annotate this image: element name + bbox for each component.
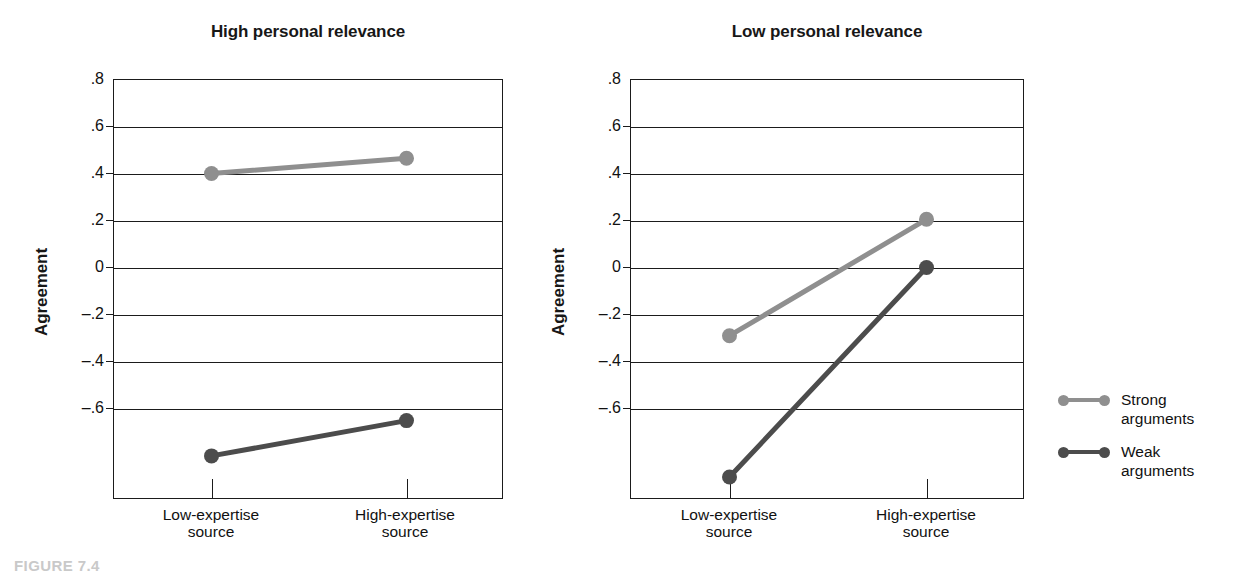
y-tick-mark	[106, 173, 113, 174]
legend-swatch-weak-arguments	[1058, 445, 1110, 459]
legend-dot-left	[1058, 447, 1069, 458]
y-tick-label: .4	[585, 165, 621, 181]
legend-item-weak-arguments[interactable]: Weak arguments	[1058, 442, 1194, 481]
y-tick-label: .2	[585, 212, 621, 228]
legend-label-line2: arguments	[1121, 409, 1194, 428]
legend-label-strong-arguments: Strong arguments	[1121, 390, 1194, 429]
x-tick-label-high-expertise-right: High-expertise source	[850, 506, 1002, 541]
series-strong-arguments-low	[722, 212, 934, 343]
data-point	[204, 166, 219, 181]
y-tick-label: –.4	[62, 353, 104, 369]
x-tick-line2: source	[850, 523, 1002, 540]
y-tick-mark	[106, 361, 113, 362]
legend-label-weak-arguments: Weak arguments	[1121, 442, 1194, 481]
y-tick-label: –.6	[579, 400, 621, 416]
series-layer-low	[631, 80, 1025, 500]
y-tick-mark	[106, 220, 113, 221]
series-weak-arguments-high	[204, 413, 414, 463]
y-tick-mark	[106, 267, 113, 268]
x-tick-label-low-expertise-right: Low-expertise source	[653, 506, 805, 541]
y-axis-label-right: Agreement	[549, 232, 569, 352]
panel-title-low-personal-relevance: Low personal relevance	[630, 22, 1024, 42]
data-point	[204, 448, 219, 463]
y-tick-mark	[623, 408, 630, 409]
legend-dot-right	[1099, 395, 1110, 406]
data-point	[919, 212, 934, 227]
y-tick-label: –.2	[579, 306, 621, 322]
x-tick-label-low-expertise-left: Low-expertise source	[135, 506, 287, 541]
series-strong-arguments-high	[204, 151, 414, 181]
y-tick-mark	[623, 314, 630, 315]
y-tick-label: –.6	[62, 400, 104, 416]
data-point	[722, 328, 737, 343]
y-tick-mark	[623, 126, 630, 127]
x-tick-line1: High-expertise	[329, 506, 481, 523]
y-tick-label: –.2	[62, 306, 104, 322]
series-layer-high	[114, 80, 504, 500]
y-tick-label: 0	[68, 259, 104, 275]
y-tick-mark	[106, 314, 113, 315]
series-weak-arguments-low	[722, 260, 934, 485]
y-tick-mark	[106, 408, 113, 409]
legend-swatch-strong-arguments	[1058, 393, 1110, 407]
panel-title-high-personal-relevance: High personal relevance	[113, 22, 503, 42]
y-tick-mark	[106, 126, 113, 127]
y-tick-label: .8	[68, 71, 104, 87]
y-tick-label: .6	[68, 118, 104, 134]
data-point	[919, 260, 934, 275]
data-point	[722, 470, 737, 485]
legend-label-line1: Weak	[1121, 442, 1194, 461]
chart-legend: Strong arguments Weak arguments	[1058, 390, 1248, 500]
plot-area-low-personal-relevance	[630, 79, 1024, 499]
figure-root: High personal relevance Agreement .8 .6 …	[0, 0, 1256, 572]
legend-label-line1: Strong	[1121, 390, 1194, 409]
figure-caption-fragment: FIGURE 7.4	[14, 557, 100, 572]
x-tick-line2: source	[329, 523, 481, 540]
x-tick-line2: source	[135, 523, 287, 540]
plot-area-high-personal-relevance	[113, 79, 503, 499]
legend-item-strong-arguments[interactable]: Strong arguments	[1058, 390, 1194, 429]
y-axis-label-left: Agreement	[32, 232, 52, 352]
data-point	[399, 151, 414, 166]
x-tick-line1: Low-expertise	[135, 506, 287, 523]
y-tick-mark	[623, 173, 630, 174]
y-tick-label: –.4	[579, 353, 621, 369]
data-point	[399, 413, 414, 428]
y-tick-mark	[623, 361, 630, 362]
y-tick-label: .6	[585, 118, 621, 134]
y-tick-mark	[623, 267, 630, 268]
x-tick-line1: High-expertise	[850, 506, 1002, 523]
legend-label-line2: arguments	[1121, 461, 1194, 480]
x-tick-line1: Low-expertise	[653, 506, 805, 523]
legend-dot-left	[1058, 395, 1069, 406]
y-tick-label: .4	[68, 165, 104, 181]
legend-dot-right	[1099, 447, 1110, 458]
x-tick-line2: source	[653, 523, 805, 540]
y-tick-mark	[623, 220, 630, 221]
y-tick-label: .8	[585, 71, 621, 87]
x-tick-label-high-expertise-left: High-expertise source	[329, 506, 481, 541]
y-tick-label: .2	[68, 212, 104, 228]
y-tick-label: 0	[585, 259, 621, 275]
